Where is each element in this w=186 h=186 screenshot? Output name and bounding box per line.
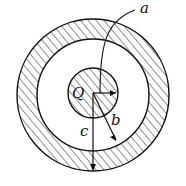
label-c: c <box>80 122 89 140</box>
concentric-spheres-diagram: a Q b c <box>0 0 186 186</box>
label-b: b <box>111 111 121 129</box>
label-a: a <box>140 0 149 17</box>
label-charge-q: Q <box>72 84 84 102</box>
